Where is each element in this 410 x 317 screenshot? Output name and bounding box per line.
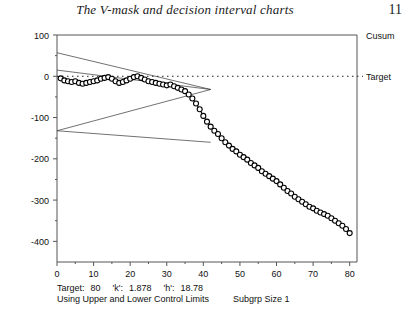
- y-tick-label: 0: [44, 72, 49, 82]
- cusum-axis-label: Cusum: [366, 31, 395, 41]
- footnote-h-value: 18.78: [180, 283, 203, 293]
- chart-footnote: Target:80'k':1.878'h':18.78 Using Upper …: [57, 283, 407, 305]
- y-tick-label: 100: [34, 31, 49, 41]
- x-axis-labels: 01020304050607080: [54, 269, 354, 279]
- footnote-target-value: 80: [91, 283, 101, 293]
- page-title: The V-mask and decision interval charts: [0, 2, 370, 18]
- x-tick-label: 70: [308, 269, 318, 279]
- x-tick-label: 30: [162, 269, 172, 279]
- footnote-limits-text: Using Upper and Lower Control Limits: [57, 294, 209, 304]
- x-tick-label: 40: [198, 269, 208, 279]
- x-axis-ticks: [57, 262, 350, 266]
- footnote-h-label: 'h':: [164, 283, 175, 293]
- target-axis-label: Target: [366, 72, 392, 82]
- x-tick-label: 60: [272, 269, 282, 279]
- footnote-k-label: 'k':: [113, 283, 123, 293]
- cusum-data-points: [58, 74, 352, 236]
- right-axis-labels: CusumTarget: [366, 31, 395, 82]
- y-tick-label: -400: [31, 237, 49, 247]
- x-tick-label: 0: [54, 269, 59, 279]
- plot-frame: [57, 35, 357, 262]
- x-tick-label: 80: [345, 269, 355, 279]
- y-tick-label: -100: [31, 113, 49, 123]
- x-tick-label: 50: [235, 269, 245, 279]
- x-tick-label: 10: [89, 269, 99, 279]
- footnote-k-value: 1.878: [129, 283, 152, 293]
- x-tick-label: 20: [125, 269, 135, 279]
- footnote-line-2: Using Upper and Lower Control LimitsSubg…: [57, 294, 407, 305]
- page-number: 11: [389, 2, 402, 18]
- page-header: The V-mask and decision interval charts …: [0, 2, 410, 22]
- page: The V-mask and decision interval charts …: [0, 0, 410, 317]
- cusum-chart: 1000-100-200-300-400 01020304050607080 C…: [0, 24, 410, 317]
- footnote-line-1: Target:80'k':1.878'h':18.78: [57, 283, 407, 294]
- chart-canvas: 1000-100-200-300-400 01020304050607080 C…: [0, 24, 410, 317]
- y-tick-label: -200: [31, 154, 49, 164]
- cusum-series-line: [61, 76, 350, 233]
- footnote-target-label: Target:: [57, 283, 85, 293]
- y-axis-ticks: [53, 35, 57, 241]
- y-axis-labels: 1000-100-200-300-400: [31, 31, 49, 247]
- vmask-lines: [57, 53, 211, 143]
- footnote-subgroup-text: Subgrp Size 1: [233, 294, 290, 304]
- y-tick-label: -300: [31, 196, 49, 206]
